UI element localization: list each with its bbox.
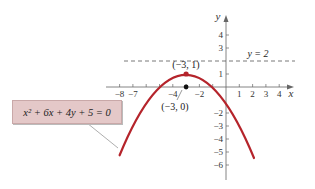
directrix-label: y = 2	[246, 48, 268, 59]
x-tick-label: −2	[195, 89, 205, 99]
vertex-point	[184, 71, 189, 76]
x-tick-label: 1	[237, 89, 242, 99]
y-tick-label: −2	[213, 108, 223, 118]
x-ticks	[120, 84, 280, 87]
y-axis-label: y	[215, 10, 221, 22]
y-tick-label: 4	[219, 30, 224, 40]
focus-leader-line	[177, 90, 182, 100]
vertex-label: (−3, 1)	[172, 59, 199, 71]
x-axis-label: x	[288, 87, 294, 99]
x-axis: −8 −7 −4 −2 1 2 3 4 x	[106, 84, 294, 99]
x-tick-label: 3	[264, 89, 269, 99]
chart-canvas: −8 −7 −4 −2 1 2 3 4 x 4 3 1 −2 −3 −4 −5 …	[0, 0, 315, 189]
equation-leader-line	[87, 123, 118, 148]
focus-label: (−3, 0)	[161, 101, 188, 113]
equation-text: x² + 6x + 4y + 5 = 0	[23, 107, 110, 118]
x-tick-label: −4	[168, 89, 178, 99]
x-tick-label: 4	[277, 89, 282, 99]
x-tick-label: −7	[128, 89, 138, 99]
y-tick-label: −6	[213, 160, 223, 170]
x-tick-label: −8	[115, 89, 125, 99]
focus-point	[184, 85, 189, 90]
y-tick-label: −5	[213, 147, 223, 157]
y-ticks	[226, 35, 229, 165]
y-tick-label: −3	[213, 121, 223, 131]
y-tick-label: 1	[219, 69, 224, 79]
x-tick-label: 2	[250, 89, 255, 99]
y-axis: 4 3 1 −2 −3 −4 −5 −6 y	[213, 10, 229, 180]
equation-callout: x² + 6x + 4y + 5 = 0	[12, 100, 122, 124]
y-axis-arrow-icon	[224, 15, 229, 22]
y-tick-label: 3	[219, 43, 224, 53]
y-tick-label: −4	[213, 134, 223, 144]
